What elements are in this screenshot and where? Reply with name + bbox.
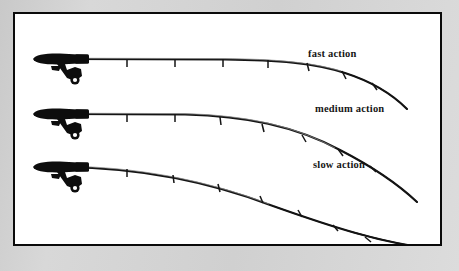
figure-panel: fast action medium action slow action [13,12,442,246]
rod-fast-reel [51,64,82,85]
rod-fast-guides [127,59,377,90]
rod-slow-blank-taper [273,206,427,244]
rod-fast [33,53,407,109]
rod-fast-blank [65,59,407,109]
rod-medium-blank [65,114,417,202]
rod-fast-handle [33,53,89,64]
rod-diagram-svg [15,14,440,244]
rod-medium-handle [33,108,89,119]
rod-slow-highlight [67,166,269,204]
rod-slow-handle [33,161,89,172]
figure-page: fast action medium action slow action [0,0,459,271]
rod-slow-reel [51,172,82,193]
rod-label-medium: medium action [315,103,384,114]
rod-slow [33,161,427,244]
rod-label-slow: slow action [313,159,365,170]
rod-medium-blank-taper [340,150,417,202]
rod-slow-guides [127,169,371,242]
rod-medium-highlight [67,113,335,148]
rod-slow-blank [65,167,427,244]
rod-medium [33,108,417,202]
rod-label-fast: fast action [308,48,357,59]
rod-medium-reel [51,119,82,140]
